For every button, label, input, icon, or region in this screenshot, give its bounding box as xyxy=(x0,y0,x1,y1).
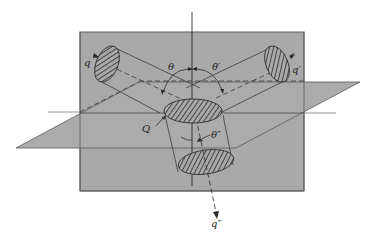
label-q-double-prime: q″ xyxy=(211,218,221,229)
label-q: q xyxy=(84,57,90,68)
label-theta-double-prime: θ″ xyxy=(211,129,221,140)
central-cross-section xyxy=(164,99,222,123)
label-q-prime: q′ xyxy=(292,64,301,75)
diagram-canvas: q q′ q″ Q θ θ′ θ″ xyxy=(0,0,373,238)
label-theta: θ xyxy=(168,61,174,72)
label-Q: Q xyxy=(142,123,150,134)
label-theta-prime: θ′ xyxy=(212,61,221,72)
